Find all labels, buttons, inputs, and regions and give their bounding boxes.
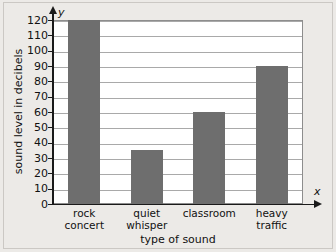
category-label-line: concert [53,220,116,232]
y-tick-mark-50 [48,127,53,128]
category-label-line: quiet [116,208,179,220]
y-tick-mark-10 [48,189,53,190]
y-tick-label-0: 0 [8,199,48,210]
y-tick-label-120: 120 [8,15,48,26]
y-tick-mark-90 [48,66,53,67]
bar-chart-figure: y x 0102030405060708090100110120 rockcon… [0,0,336,252]
category-label-quiet-whisper: quietwhisper [116,208,179,231]
x-axis-title: type of sound [53,233,303,246]
y-axis-title: sound level in decibels [12,32,25,192]
category-label-classroom: classroom [178,208,241,220]
y-tick-mark-120 [48,20,53,21]
category-label-line: classroom [178,208,241,220]
category-label-line: rock [53,208,116,220]
y-tick-mark-100 [48,51,53,52]
category-label-line: heavy [241,208,304,220]
category-label-rock-concert: rockconcert [53,208,116,231]
y-tick-mark-40 [48,143,53,144]
y-tick-mark-60 [48,112,53,113]
category-label-heavy-traffic: heavytraffic [241,208,304,231]
category-label-line: traffic [241,220,304,232]
category-label-line: whisper [116,220,179,232]
y-tick-mark-0 [48,204,53,205]
y-tick-mark-30 [48,158,53,159]
y-tick-mark-70 [48,97,53,98]
y-tick-mark-20 [48,173,53,174]
y-tick-mark-110 [48,35,53,36]
y-tick-mark-80 [48,81,53,82]
